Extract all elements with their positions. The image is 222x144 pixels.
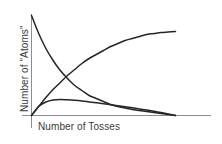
growth-curve bbox=[32, 32, 176, 116]
x-axis-label: Number of Tosses bbox=[38, 122, 120, 132]
y-axis-label: Number of "Atoms" bbox=[20, 8, 33, 112]
decay-curve-figure: Number of "Atoms" Number of Tosses bbox=[0, 0, 222, 144]
